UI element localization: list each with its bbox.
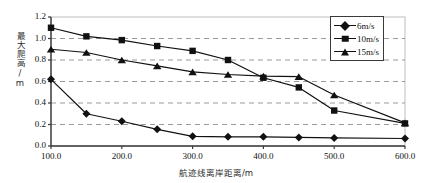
legend-label: 15m/s: [356, 47, 379, 57]
legend-item-15m-s: 15m/s: [334, 45, 379, 58]
x-axis-title: 航迹线离岸距离/m: [0, 166, 432, 178]
legend-line-swatch: [334, 21, 356, 31]
data-point-10m-s: [225, 57, 231, 63]
legend-line-swatch: [334, 34, 356, 44]
data-point-10m-s: [83, 33, 89, 39]
square-marker-icon: [342, 35, 349, 42]
data-point-10m-s: [154, 43, 160, 49]
data-point-10m-s: [119, 37, 125, 43]
legend-item-10m-s: 10m/s: [334, 32, 379, 45]
data-point-10m-s: [48, 25, 54, 31]
legend-label: 6m/s: [356, 21, 375, 31]
data-point-10m-s: [331, 107, 337, 113]
diamond-marker-icon: [340, 21, 350, 31]
chart-container: 最大爬高/m 0.00.20.40.60.81.01.2 100.0200.03…: [0, 0, 432, 183]
triangle-marker-icon: [341, 48, 349, 55]
data-point-10m-s: [296, 84, 302, 90]
legend-item-6m-s: 6m/s: [334, 19, 379, 32]
legend-label: 10m/s: [356, 34, 379, 44]
chart-legend: 6m/s10m/s15m/s: [330, 16, 384, 61]
data-point-10m-s: [189, 48, 195, 54]
legend-line-swatch: [334, 47, 356, 57]
